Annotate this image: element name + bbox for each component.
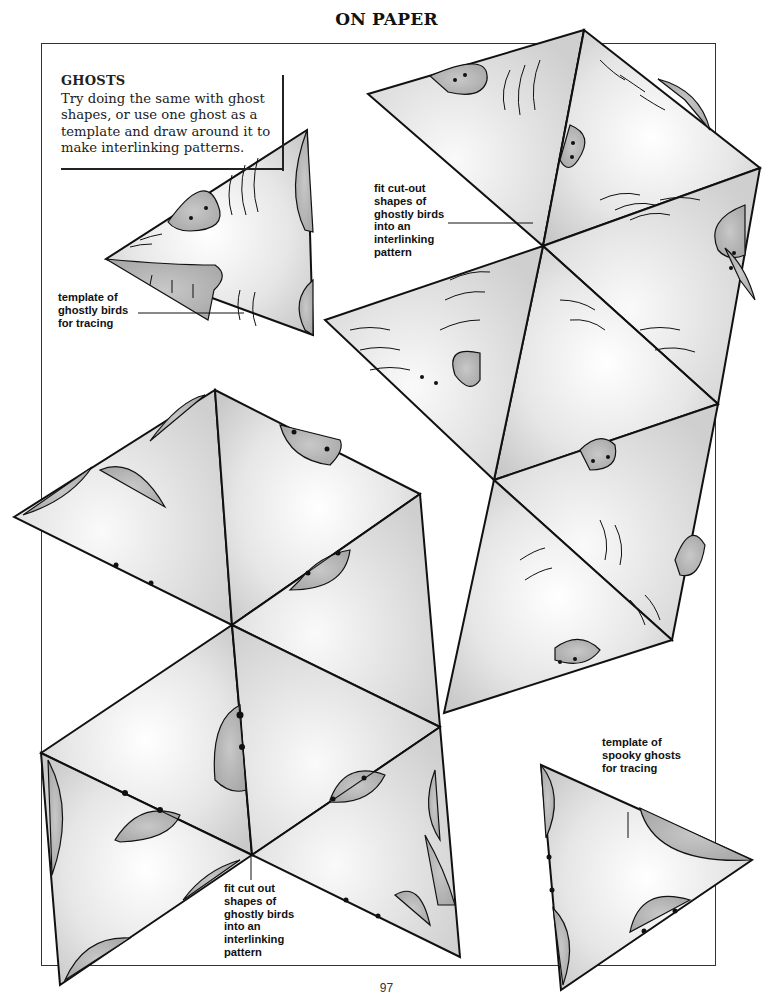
intro-body: Try doing the same with ghost shapes, or… <box>61 91 286 157</box>
intro-side-rule <box>282 75 284 171</box>
caption-fit-bottom: fit cut out shapes of ghostly birds into… <box>224 882 294 959</box>
caption-template-ghosts: template of spooky ghosts for tracing <box>602 736 681 774</box>
intro-text-block: GHOSTS Try doing the same with ghost sha… <box>61 73 286 157</box>
caption-fit-top: fit cut-out shapes of ghostly birds into… <box>374 182 444 259</box>
page-number: 97 <box>0 981 773 995</box>
intro-bottom-rule <box>61 168 283 170</box>
template-ghosts-triangle <box>541 765 752 990</box>
intro-heading: GHOSTS <box>61 73 286 90</box>
caption-template-birds: template of ghostly birds for tracing <box>58 291 128 329</box>
ghost-head-shape <box>168 191 220 231</box>
